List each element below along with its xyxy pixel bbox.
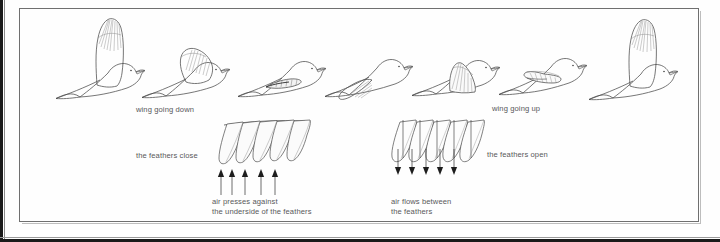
- figure-illustration: wing going down wing going up the feathe…: [0, 0, 720, 242]
- open-feathers-diagram: [392, 120, 485, 175]
- bird-frame-2: [142, 48, 230, 97]
- label-wing-going-down: wing going down: [136, 105, 194, 115]
- label-the-feathers-open: the feathers open: [487, 150, 548, 160]
- caption-air-presses-line2: the underside of the feathers: [212, 207, 312, 217]
- label-wing-going-up: wing going up: [492, 104, 540, 114]
- bird-frame-7: [589, 20, 678, 100]
- label-the-feathers-close: the feathers close: [136, 151, 198, 161]
- bird-frame-1: [56, 19, 145, 99]
- caption-air-flows-line2: the feathers: [391, 207, 432, 217]
- bird-frame-6: [499, 58, 587, 94]
- closed-feathers-diagram: [218, 120, 310, 195]
- bird-frame-5: [412, 60, 500, 95]
- caption-air-flows-line1: air flows between: [391, 197, 451, 207]
- bird-frame-3: [238, 61, 326, 96]
- bird-frame-4: [325, 59, 413, 99]
- caption-air-presses-line1: air presses against: [212, 197, 278, 207]
- artwork-canvas: [0, 0, 720, 242]
- closed-feathers-arrows: [218, 169, 278, 195]
